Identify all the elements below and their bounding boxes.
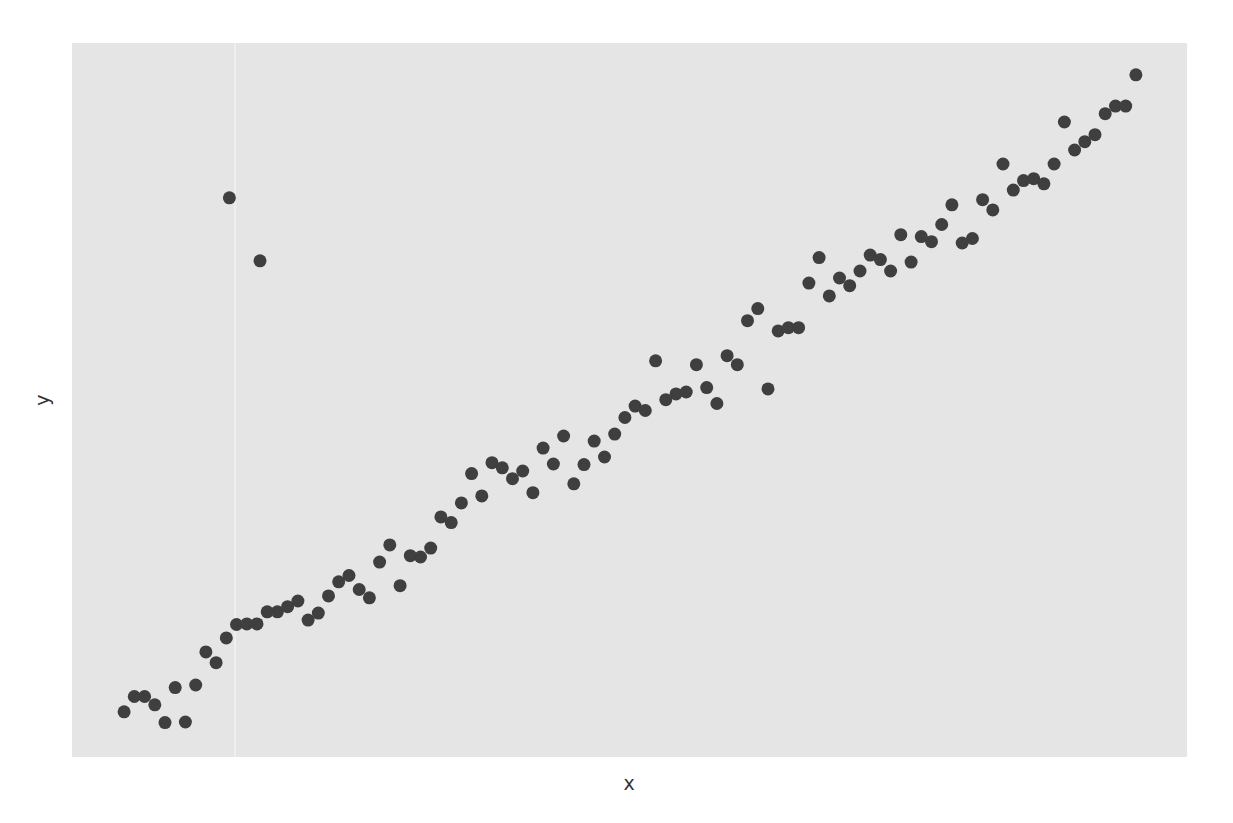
data-point [884,265,897,278]
data-point [189,679,202,692]
data-point [220,631,233,644]
data-point [118,705,131,718]
data-point [905,256,918,269]
data-point [802,277,815,290]
data-point [291,595,304,608]
data-point [986,203,999,216]
data-point [1007,184,1020,197]
outlier-point [223,191,236,204]
data-point [516,465,529,478]
data-point [639,404,652,417]
data-point [690,358,703,371]
x-axis-label: x [623,772,634,794]
data-point [1048,158,1061,171]
data-point [414,551,427,564]
outlier-point [254,254,267,267]
data-point [945,198,958,211]
data-point [731,358,744,371]
data-point [578,458,591,471]
data-point [445,516,458,529]
data-point [138,690,151,703]
data-point [465,467,478,480]
data-point [598,451,611,464]
data-point [210,656,223,669]
data-point [680,386,693,399]
data-point [394,579,407,592]
scatter-chart: x y [0,0,1233,823]
data-point [710,397,723,410]
data-point [792,321,805,334]
data-point [1089,128,1102,141]
data-point [557,430,570,443]
data-point [588,435,601,448]
data-point [843,279,856,292]
data-point [608,428,621,441]
data-point [741,314,754,327]
data-point [353,583,366,596]
data-point [537,442,550,455]
data-point [424,542,437,555]
data-point [1129,68,1142,81]
data-point [649,354,662,367]
data-point [455,496,468,509]
data-point [854,265,867,278]
data-point [997,158,1010,171]
data-point [966,232,979,245]
data-point [1058,116,1071,129]
data-point [823,289,836,302]
data-point [935,218,948,231]
data-point [496,461,509,474]
data-point [813,251,826,264]
plot-panel [72,43,1187,757]
data-point [312,607,325,620]
data-point [199,645,212,658]
data-point [383,538,396,551]
data-point [976,193,989,206]
data-point [1119,100,1132,113]
data-point [343,569,356,582]
data-point [373,556,386,569]
data-point [159,716,172,729]
data-point [1099,107,1112,120]
data-point [894,228,907,241]
data-point [363,591,376,604]
data-point [251,617,264,630]
data-point [179,716,192,729]
data-point [322,589,335,602]
data-point [700,381,713,394]
data-point [925,235,938,248]
y-axis-label: y [31,394,53,405]
data-point [721,349,734,362]
data-point [547,458,560,471]
data-point [1068,144,1081,157]
data-point [169,681,182,694]
data-point [618,411,631,424]
data-point [1037,177,1050,190]
data-point [148,698,161,711]
data-point [751,302,764,315]
data-point [874,253,887,266]
data-point [475,489,488,502]
data-point [567,477,580,490]
data-point [762,382,775,395]
data-point [526,486,539,499]
